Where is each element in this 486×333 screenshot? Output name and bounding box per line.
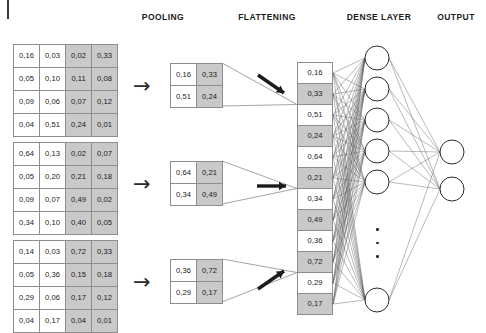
edge-flatten-dense: [333, 120, 365, 283]
edge-flatten-dense: [333, 151, 365, 220]
feature-map-3: 0,140,030,720,330,050,360,150,180,290,06…: [13, 240, 118, 333]
dense-node-5: [365, 170, 389, 194]
pooled-map-cell: 0,29: [171, 282, 196, 303]
column-header-flattening: FLATTENING: [222, 12, 312, 22]
feature-map-cell: 0,01: [92, 114, 117, 136]
flatten-arrow-down-right-glyph: [256, 72, 290, 98]
edge-flatten-dense: [333, 151, 365, 241]
pooled-map-1: 0,160,330,510,24: [170, 63, 223, 108]
edge-dense-output: [389, 58, 440, 152]
edge-flatten-dense: [333, 157, 365, 300]
edge-flatten-dense: [333, 94, 365, 182]
feature-map-cell: 0,09: [14, 91, 39, 113]
dense-ellipsis: [376, 228, 379, 269]
feature-map-cell: 0,04: [66, 310, 91, 332]
feature-map-cell: 0,33: [92, 241, 117, 263]
edge-flatten-dense: [333, 151, 365, 262]
edge-flatten-dense: [333, 89, 365, 283]
feature-map-cell: 0,07: [92, 143, 117, 165]
flatten-cell: 0,24: [298, 126, 332, 146]
edge-flatten-dense: [333, 182, 365, 283]
feature-map-1: 0,160,030,020,330,050,100,110,080,090,06…: [13, 44, 118, 137]
feature-map-cell: 0,05: [14, 264, 39, 286]
edge-flatten-dense: [333, 73, 365, 300]
flatten-arrow-right-glyph: [256, 174, 290, 200]
pooled-map-cell: 0,64: [171, 162, 196, 183]
edge-flatten-dense: [333, 178, 365, 182]
flatten-cell: 0,21: [298, 168, 332, 188]
edge-flatten-dense: [333, 58, 365, 304]
edge-flatten-dense: [333, 89, 365, 115]
edge-flatten-dense: [333, 262, 365, 300]
feature-map-cell: 0,06: [40, 91, 65, 113]
pooled-map-2: 0,640,210,340,49: [170, 161, 223, 206]
feature-map-cell: 0,18: [92, 264, 117, 286]
edge-flatten-dense: [333, 94, 365, 300]
edge-flatten-dense: [333, 136, 365, 151]
flatten-arrow-up-right-glyph: [256, 268, 290, 294]
flatten-cell: 0,51: [298, 105, 332, 125]
edge-flatten-dense: [333, 120, 365, 178]
edge-flatten-dense: [333, 58, 365, 115]
edge-flatten-dense: [333, 151, 365, 283]
flatten-cell: 0,29: [298, 273, 332, 293]
edge-flatten-dense: [333, 182, 365, 262]
edge-flatten-dense: [333, 58, 365, 220]
pooled-map-cell: 0,72: [197, 260, 222, 281]
edge-flatten-dense: [333, 151, 365, 304]
feature-map-cell: 0,12: [92, 91, 117, 113]
edge-dense-output: [389, 152, 440, 300]
pooled-map-cell: 0,49: [197, 184, 222, 205]
edge-flatten-dense: [333, 58, 365, 94]
edge-flatten-dense: [333, 151, 365, 199]
edge-flatten-dense: [333, 120, 365, 157]
edge-flatten-dense: [333, 182, 365, 241]
edge-flatten-dense: [333, 136, 365, 182]
feature-map-cell: 0,02: [66, 143, 91, 165]
edge-flatten-dense: [333, 94, 365, 120]
feature-map-cell: 0,34: [14, 212, 39, 234]
edge-flatten-dense: [333, 115, 365, 120]
edge-flatten-dense: [333, 182, 365, 220]
edge-flatten-dense: [333, 120, 365, 241]
feature-map-cell: 0,05: [14, 166, 39, 188]
dense-node-1: [365, 46, 389, 70]
feature-map-cell: 0,17: [40, 310, 65, 332]
feature-map-cell: 0,40: [66, 212, 91, 234]
edge-flatten-dense: [333, 73, 365, 89]
edge-flatten-dense: [333, 120, 365, 262]
output-node-2: [440, 177, 464, 201]
flatten-cell: 0,36: [298, 231, 332, 251]
edge-flatten-dense: [333, 73, 365, 120]
feature-map-cell: 0,10: [40, 212, 65, 234]
feature-map-cell: 0,05: [92, 212, 117, 234]
feature-map-cell: 0,02: [66, 45, 91, 67]
edge-flatten-dense: [333, 58, 365, 283]
feature-map-cell: 0,51: [40, 114, 65, 136]
feature-map-cell: 0,07: [66, 91, 91, 113]
feature-map-cell: 0,18: [92, 166, 117, 188]
feature-map-2: 0,640,130,020,070,050,200,210,180,090,07…: [13, 142, 118, 235]
feature-map-cell: 0,02: [92, 189, 117, 211]
edge-dense-output: [389, 151, 440, 189]
pool-arrow-1: →: [133, 76, 151, 97]
feature-map-cell: 0,33: [92, 45, 117, 67]
feature-map-cell: 0,21: [66, 166, 91, 188]
flatten-cell: 0,33: [298, 84, 332, 104]
feature-map-cell: 0,07: [40, 189, 65, 211]
edge-flatten-dense: [333, 199, 365, 300]
pool-arrow-3: →: [133, 272, 151, 293]
edge-flatten-dense: [333, 89, 365, 241]
feature-map-cell: 0,03: [40, 241, 65, 263]
column-header-pooling: POOLING: [123, 12, 203, 22]
edge-flatten-dense: [333, 178, 365, 300]
edge-flatten-dense: [333, 89, 365, 304]
edge-flatten-dense: [333, 120, 365, 136]
pool-arrow-2: →: [133, 174, 151, 195]
dense-node-2: [365, 77, 389, 101]
column-header-dense-layer: DENSE LAYER: [336, 12, 422, 22]
edge-flatten-dense: [333, 89, 365, 220]
dense-node-3: [365, 108, 389, 132]
edge-flatten-dense: [333, 89, 365, 178]
feature-map-cell: 0,36: [40, 264, 65, 286]
